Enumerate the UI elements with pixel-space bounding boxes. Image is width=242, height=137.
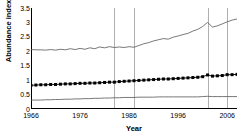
plot-area xyxy=(31,8,237,109)
x-tick-label: 2006 xyxy=(207,111,242,120)
x-axis-tick-labels: 19661976198619962006 xyxy=(0,111,242,121)
series-lower-series xyxy=(31,96,237,100)
x-tick-label: 1966 xyxy=(11,111,51,120)
x-axis-title: Year xyxy=(30,124,238,133)
data-series-layer xyxy=(31,19,237,100)
series-middle-series-markers xyxy=(31,73,237,87)
vertical-reference-lines xyxy=(115,8,228,109)
x-tick-label: 1996 xyxy=(158,111,198,120)
series-upper-series xyxy=(31,19,237,50)
x-tick-label: 1976 xyxy=(60,111,100,120)
abundance-index-chart: Abundance index Year 3.532.521.510.50 19… xyxy=(0,0,242,137)
y-tick-label: 1 xyxy=(10,76,30,85)
y-tick-label: 3.5 xyxy=(10,4,30,13)
y-tick-label: 0.5 xyxy=(10,90,30,99)
y-tick-label: 2 xyxy=(10,47,30,56)
y-tick-label: 3 xyxy=(10,18,30,27)
x-tick-label: 1986 xyxy=(109,111,149,120)
y-tick-label: 1.5 xyxy=(10,61,30,70)
y-tick-label: 2.5 xyxy=(10,32,30,41)
